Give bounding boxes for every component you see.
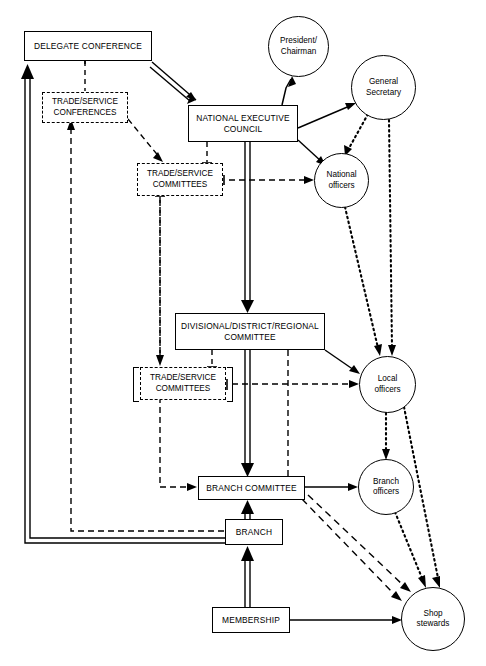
node-trade-service-committees-national[interactable]: TRADE/SERVICE COMMITTEES [137, 163, 223, 196]
node-divisional-district-regional-committee[interactable]: DIVISIONAL/DISTRICT/REGIONAL COMMITTEE [175, 313, 325, 350]
node-branch-officers-label-line2: officers [371, 487, 401, 497]
node-shop-stewards-label-line1: Shop [421, 609, 444, 619]
node-general-secretary-label-line1: General [367, 77, 400, 87]
node-branch-label: BRANCH [234, 527, 274, 538]
edge-membership-to-branch [241, 546, 254, 607]
node-trade-service-conferences-label-line1: TRADE/SERVICE [50, 97, 120, 107]
edge-tscomm-national-to-tscomm-regional [156, 200, 164, 366]
node-tsc-regional-label-line1: TRADE/SERVICE [148, 373, 218, 383]
node-local-officers-label-line2: officers [372, 385, 402, 395]
node-shop-stewards[interactable]: Shop stewards [401, 587, 465, 651]
node-local-officers-label-line1: Local [376, 374, 400, 384]
edge-tscomm-regional-to-local-officers [227, 379, 359, 390]
node-membership[interactable]: MEMBERSHIP [212, 607, 290, 633]
edge-national-officers-to-local-officers [345, 207, 382, 356]
node-trade-service-conferences[interactable]: TRADE/SERVICE CONFERENCES [42, 92, 128, 123]
node-general-secretary-label-line2: Secretary [364, 88, 403, 98]
node-branch-committee[interactable]: BRANCH COMMITTEE [198, 476, 305, 500]
node-tsc-national-label-line2: COMMITTEES [151, 180, 210, 190]
node-general-secretary[interactable]: General Secretary [351, 55, 416, 120]
node-local-officers[interactable]: Local officers [359, 356, 416, 413]
edge-branch-officers-to-shop-stewards [395, 512, 426, 588]
node-trade-service-conferences-label-line2: CONFERENCES [52, 108, 119, 118]
node-tsc-national-label-line1: TRADE/SERVICE [145, 169, 215, 179]
node-national-officers[interactable]: National officers [314, 153, 369, 208]
node-national-executive-council-label-line2: COUNCIL [222, 124, 265, 135]
edge-membership-to-shop-stewards [290, 616, 402, 624]
node-branch-officers[interactable]: Branch officers [358, 459, 414, 515]
node-president-chairman-label-line2: Chairman [279, 47, 319, 57]
node-national-executive-council-label-line1: NATIONAL EXECUTIVE [194, 113, 291, 124]
node-branch-committee-label: BRANCH COMMITTEE [204, 483, 298, 494]
node-trade-service-committees-regional[interactable]: TRADE/SERVICE COMMITTEES [140, 367, 226, 400]
edge-gs-to-national-officers [344, 114, 368, 156]
edge-nec-to-divisional [241, 142, 254, 313]
node-membership-label: MEMBERSHIP [220, 615, 282, 626]
node-tsc-regional-label-line2: COMMITTEES [154, 384, 213, 394]
node-delegate-conference-label: DELEGATE CONFERENCE [32, 41, 144, 52]
edge-nec-to-president [282, 76, 296, 105]
edge-branch-to-branch-committee [241, 500, 254, 519]
edge-divisional-to-local-officers [325, 350, 360, 374]
node-national-officers-label-line1: National [324, 170, 358, 180]
node-national-executive-council[interactable]: NATIONAL EXECUTIVE COUNCIL [188, 105, 298, 142]
edge-tsconf-to-tscomm [128, 119, 163, 162]
edge-tscomm-to-national-officers [224, 175, 314, 185]
edge-divisional-to-tscomm-regional [207, 350, 217, 367]
node-shop-stewards-label-line2: stewards [415, 619, 452, 629]
edge-nec-to-general-secretary [298, 103, 356, 128]
node-delegate-conference[interactable]: DELEGATE CONFERENCE [24, 31, 152, 61]
edge-delegate-conference-to-nec [150, 62, 196, 104]
bracket-tsc-regional-left [133, 367, 139, 402]
node-national-officers-label-line2: officers [326, 181, 356, 191]
node-branch[interactable]: BRANCH [225, 519, 283, 545]
node-branch-officers-label-line1: Branch [371, 477, 401, 487]
edge-gs-to-local-officers [388, 120, 396, 356]
node-divisional-label-line2: COMMITTEE [222, 332, 278, 343]
node-divisional-label-line1: DIVISIONAL/DISTRICT/REGIONAL [179, 321, 321, 332]
edge-divisional-to-branch-committee [241, 350, 254, 477]
organisational-structure-diagram: DELEGATE CONFERENCE TRADE/SERVICE CONFER… [0, 0, 486, 666]
node-president-chairman[interactable]: President/ Chairman [268, 16, 329, 77]
bracket-tsc-regional-right [227, 367, 233, 402]
edge-local-officers-to-branch-officers [382, 413, 390, 460]
node-president-chairman-label-line1: President/ [278, 36, 319, 46]
edge-nec-to-tscomm [202, 142, 212, 163]
edge-branch-committee-to-branch-officers [305, 483, 358, 491]
